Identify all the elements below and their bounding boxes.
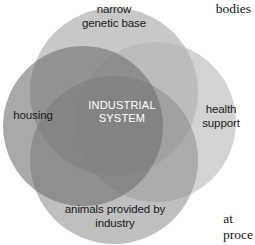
label-animals-provided-by-industry: animals provided by industry xyxy=(44,203,186,230)
label-health-support: health support xyxy=(192,103,250,130)
page-body-text-proce: proce xyxy=(223,227,253,244)
label-housing: housing xyxy=(2,109,64,123)
label-narrow-genetic-base: narrow genetic base xyxy=(58,3,170,30)
circle-housing xyxy=(3,46,163,206)
label-industrial-system: INDUSTRIAL SYSTEM xyxy=(74,99,170,125)
page-body-text-at: at xyxy=(223,211,233,228)
page-body-text-bodies: bodies xyxy=(216,1,251,18)
venn-diagram-figure: narrow genetic base housing health suppo… xyxy=(0,0,255,245)
